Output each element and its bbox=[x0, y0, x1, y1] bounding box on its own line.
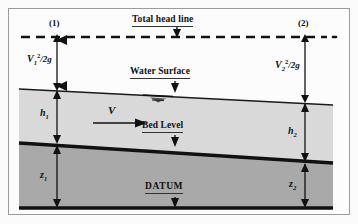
bed-level-label: Bed Level bbox=[142, 121, 183, 133]
velocity-head-1-label: V12/2g bbox=[27, 53, 52, 67]
figure-container: Total head line Water Surface Bed Level … bbox=[0, 0, 358, 224]
velocity-head-2-base: V bbox=[275, 59, 282, 70]
datum-label: DATUM bbox=[145, 182, 183, 194]
velocity-head-2-arrow-bottom bbox=[301, 95, 309, 103]
depth-1-sub: 1 bbox=[46, 113, 49, 120]
velocity-head-1-sub: 1 bbox=[34, 59, 37, 66]
elevation-2-sub: 2 bbox=[293, 184, 296, 191]
elevation-1-sub: 1 bbox=[44, 175, 47, 182]
velocity-head-2-tail: /2g bbox=[288, 60, 300, 70]
elevation-1-label: z1 bbox=[40, 170, 47, 183]
depth-1-label: h1 bbox=[40, 108, 49, 121]
elevation-2-label: z2 bbox=[289, 179, 296, 192]
velocity-head-1-tail: /2g bbox=[40, 54, 52, 64]
section-1-label: (1) bbox=[49, 19, 60, 28]
section-2-label: (2) bbox=[298, 19, 309, 28]
velocity-head-1-arrow-bottom bbox=[53, 83, 61, 91]
depth-2-sub: 2 bbox=[294, 131, 297, 138]
total-head-line-label: Total head line bbox=[132, 15, 193, 27]
water-surface-label: Water Surface bbox=[130, 67, 190, 79]
velocity-label: V bbox=[108, 105, 115, 116]
velocity-head-1-base: V bbox=[27, 53, 34, 64]
velocity-head-2-label: V22/2g bbox=[275, 59, 300, 73]
velocity-head-2-sub: 2 bbox=[282, 65, 285, 72]
water-surface-callout-arrow bbox=[171, 83, 179, 93]
figure-frame: Total head line Water Surface Bed Level … bbox=[8, 8, 350, 215]
depth-2-label: h2 bbox=[288, 126, 297, 139]
